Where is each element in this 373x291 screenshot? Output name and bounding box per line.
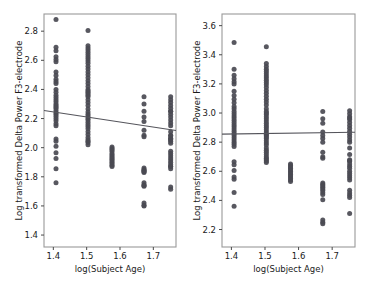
data-point — [142, 109, 147, 114]
y-tick-label: 3.6 — [202, 21, 216, 31]
x-tick-label: 1.7 — [325, 251, 339, 261]
data-point — [232, 177, 237, 182]
data-point — [320, 197, 325, 202]
x-tick-label: 1.4 — [225, 251, 239, 261]
data-point — [232, 190, 237, 195]
y-axis-title: Log transformed Delta Power F3-electrode — [192, 41, 202, 221]
data-point — [347, 140, 352, 145]
data-point — [54, 144, 59, 149]
x-axis-title: log(Subject Age) — [75, 264, 146, 274]
data-point — [264, 160, 269, 165]
y-tick-label: 2.8 — [202, 137, 216, 147]
y-tick-label: 2.6 — [24, 55, 38, 65]
data-point — [232, 162, 237, 167]
data-point — [168, 141, 173, 146]
data-point — [320, 192, 325, 197]
y-tick-label: 2.2 — [24, 114, 38, 124]
data-point — [288, 179, 293, 184]
x-tick-label: 1.6 — [292, 251, 306, 261]
data-point — [232, 144, 237, 149]
data-point — [168, 187, 173, 192]
data-point — [232, 81, 237, 86]
data-point — [142, 119, 147, 124]
data-point — [168, 133, 173, 138]
data-point — [264, 44, 269, 49]
data-point — [54, 81, 59, 86]
data-point — [347, 178, 352, 183]
data-point — [142, 94, 147, 99]
data-point — [232, 89, 237, 94]
y-tick-label: 2.0 — [24, 143, 38, 153]
data-point — [54, 139, 59, 144]
data-point — [320, 221, 325, 226]
data-point — [54, 166, 59, 171]
x-tick-label: 1.6 — [113, 251, 127, 261]
data-point — [347, 195, 352, 200]
data-point — [110, 164, 115, 169]
data-point — [54, 180, 59, 185]
y-tick-label: 2.2 — [202, 225, 216, 235]
data-point — [86, 28, 91, 33]
data-point — [54, 156, 59, 161]
data-point — [142, 170, 147, 175]
data-point — [320, 150, 325, 155]
data-point — [142, 134, 147, 139]
x-axis-title: log(Subject Age) — [253, 264, 324, 274]
data-point — [168, 166, 173, 171]
x-tick-label: 1.5 — [80, 251, 94, 261]
data-point — [320, 156, 325, 161]
plot-frame — [222, 14, 355, 247]
x-tick-label: 1.4 — [47, 251, 61, 261]
plot-frame — [44, 14, 176, 247]
y-tick-label: 3.0 — [202, 108, 216, 118]
data-point — [168, 123, 173, 128]
trend-line — [44, 111, 176, 131]
data-point — [232, 168, 237, 173]
data-point — [54, 48, 59, 53]
scatter-plot-right-svg: 1.41.51.61.72.22.42.62.83.03.23.43.6log(… — [186, 0, 373, 291]
y-tick-label: 1.4 — [24, 230, 38, 240]
y-tick-label: 3.4 — [202, 50, 216, 60]
data-point — [320, 121, 325, 126]
y-axis-title: Log transformed Delta Power F3-electrode — [14, 41, 24, 221]
y-tick-label: 3.2 — [202, 79, 216, 89]
data-point — [142, 115, 147, 120]
y-tick-label: 1.6 — [24, 201, 38, 211]
data-point — [142, 102, 147, 107]
x-tick-label: 1.7 — [147, 251, 161, 261]
data-point — [320, 109, 325, 114]
scatter-points — [54, 17, 174, 208]
data-point — [347, 145, 352, 150]
data-point — [347, 116, 352, 121]
y-tick-label: 2.4 — [24, 84, 38, 94]
data-point — [54, 150, 59, 155]
y-tick-label: 2.8 — [24, 26, 38, 36]
y-tick-label: 1.8 — [24, 172, 38, 182]
data-point — [142, 203, 147, 208]
data-point — [347, 211, 352, 216]
scatter-panel-left: 1.41.51.61.71.41.61.82.02.22.42.62.8log(… — [0, 0, 186, 291]
data-point — [232, 40, 237, 45]
data-point — [86, 142, 91, 147]
data-point — [168, 109, 173, 114]
scatter-plot-left-svg: 1.41.51.61.71.41.61.82.02.22.42.62.8log(… — [0, 0, 186, 291]
data-point — [54, 123, 59, 128]
y-tick-label: 2.6 — [202, 166, 216, 176]
trend-line — [222, 132, 355, 134]
data-point — [232, 204, 237, 209]
data-point — [54, 17, 59, 22]
data-point — [320, 116, 325, 121]
data-point — [142, 128, 147, 133]
figure-container: 1.41.51.61.71.41.61.82.02.22.42.62.8log(… — [0, 0, 373, 291]
data-point — [347, 152, 352, 157]
y-tick-label: 2.4 — [202, 195, 216, 205]
data-point — [142, 184, 147, 189]
scatter-panel-right: 1.41.51.61.72.22.42.62.83.03.23.43.6log(… — [186, 0, 373, 291]
data-point — [320, 140, 325, 145]
data-point — [232, 67, 237, 72]
data-point — [54, 59, 59, 64]
x-tick-label: 1.5 — [258, 251, 272, 261]
